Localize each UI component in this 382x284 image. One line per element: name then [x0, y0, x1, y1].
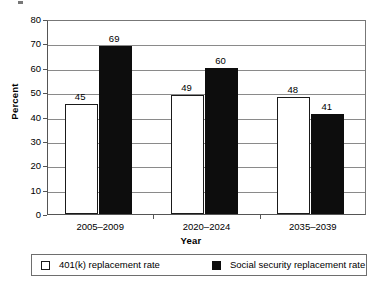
- bar: [277, 97, 310, 214]
- x-axis-category-label: 2005–2009: [45, 221, 155, 232]
- bar: [171, 95, 204, 214]
- y-axis-tick-label: 30: [15, 137, 41, 147]
- bar-chart-figure: 01020304050607080 Percent 456949604841 2…: [0, 0, 382, 284]
- y-axis-tick-label: 10: [15, 186, 41, 196]
- x-axis-tick-mark: [260, 215, 261, 219]
- x-axis-category-label: 2020–2024: [152, 221, 262, 232]
- y-axis-tick-label: 70: [15, 39, 41, 49]
- bar: [311, 114, 344, 214]
- bar-value-label: 49: [167, 83, 207, 93]
- x-axis-tick-mark: [153, 215, 154, 219]
- chart-legend: 401(k) replacement rate Social security …: [31, 254, 367, 276]
- bar: [65, 104, 98, 214]
- plot-area: [47, 20, 366, 215]
- legend-swatch-light-icon: [41, 261, 50, 270]
- bar: [99, 46, 132, 214]
- scan-artifact-speck: [18, 1, 23, 4]
- legend-label: Social security replacement rate: [230, 260, 365, 270]
- y-axis-tick-label: 80: [15, 15, 41, 25]
- y-axis-tick-label: 20: [15, 161, 41, 171]
- bar-value-label: 48: [273, 85, 313, 95]
- bar-value-label: 69: [94, 34, 134, 44]
- legend-item-social-security[interactable]: Social security replacement rate: [212, 255, 365, 275]
- bar-value-label: 41: [307, 102, 347, 112]
- legend-label: 401(k) replacement rate: [59, 260, 160, 270]
- x-axis-title: Year: [0, 235, 382, 246]
- y-axis-tick-mark: [43, 215, 47, 216]
- bar: [205, 68, 238, 214]
- gridline: [48, 45, 365, 46]
- x-axis-category-label: 2035–2039: [258, 221, 368, 232]
- legend-item-401k[interactable]: 401(k) replacement rate: [41, 255, 160, 275]
- legend-swatch-dark-icon: [212, 261, 221, 270]
- y-axis-tick-label: 0: [15, 210, 41, 220]
- y-axis-title: Percent: [9, 72, 20, 132]
- bar-value-label: 60: [201, 56, 241, 66]
- bar-value-label: 45: [60, 92, 100, 102]
